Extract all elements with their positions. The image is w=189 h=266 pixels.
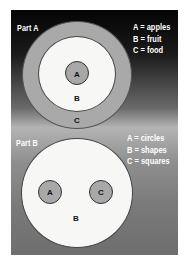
part-a-title: Part A [17, 23, 39, 33]
circle-a-label: A [74, 70, 80, 79]
legend-item-c: C = food [133, 45, 170, 57]
part-b-title: Part B [16, 138, 38, 148]
diagram-panel: Part A A = apples B = fruit C = food A B… [11, 10, 178, 255]
circle-b-label: B [73, 214, 79, 223]
part-b-legend: A = circles B = shapes C = squares [127, 133, 170, 168]
legend-item-a: A = apples [133, 22, 170, 34]
circle-b-label: B [74, 94, 80, 103]
legend-item-c: C = squares [127, 156, 170, 168]
legend-item-b: B = fruit [133, 34, 170, 46]
legend-item-a: A = circles [127, 133, 170, 145]
part-a-legend: A = apples B = fruit C = food [133, 22, 170, 57]
circle-c-label: C [98, 188, 104, 197]
legend-item-b: B = shapes [127, 145, 170, 157]
circle-a-label: A [47, 188, 53, 197]
circle-c-label: C [74, 116, 80, 125]
